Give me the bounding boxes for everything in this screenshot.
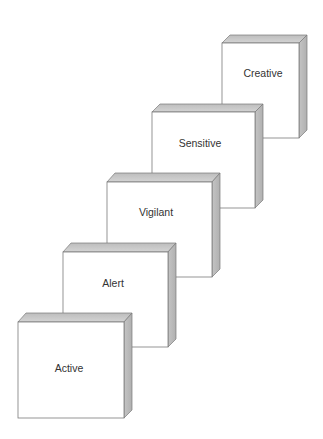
box-label-alert: Alert [102, 277, 124, 289]
box-active: Active [18, 313, 132, 418]
box-label-vigilant: Vigilant [139, 206, 173, 218]
box-label-active: Active [55, 362, 84, 374]
box-label-sensitive: Sensitive [179, 137, 222, 149]
box-label-creative: Creative [243, 67, 282, 79]
stair-diagram: Creative Sensitive Vigilant Alert Active [0, 0, 323, 439]
